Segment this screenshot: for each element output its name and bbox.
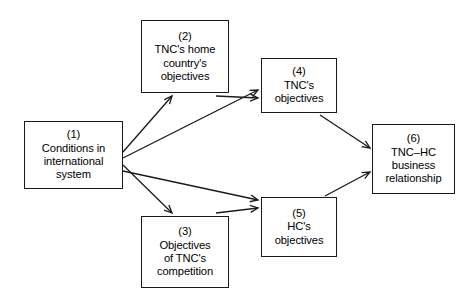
node-2[interactable]: (2) TNC's home country's objectives [141,20,229,93]
node-2-number: (2) [178,30,191,43]
node-1-line-3: system [56,168,91,181]
node-1-line-1: Conditions in [42,142,105,155]
node-3-line-1: Objectives [159,239,210,252]
node-1[interactable]: (1) Conditions in international system [24,121,123,189]
node-5-line-1: HC's [287,220,311,233]
node-6-number: (6) [407,132,420,145]
node-5[interactable]: (5) HC's objectives [261,197,337,257]
node-5-number: (5) [292,207,305,220]
node-5-line-2: objectives [275,234,324,247]
node-1-line-2: international [44,155,104,168]
node-2-line-2: country's [163,57,207,70]
node-4[interactable]: (4) TNC's objectives [261,58,337,113]
diagram-canvas: (1) Conditions in international system (… [0,0,467,308]
node-4-line-2: objectives [275,92,324,105]
node-6-line-1: TNC–HC [391,146,436,159]
node-4-line-1: TNC's [284,79,314,92]
node-3-line-2: of TNC's [164,252,206,265]
node-3-line-3: competition [157,265,213,278]
node-6-line-3: relationship [385,172,441,185]
node-2-line-1: TNC's home [155,43,216,56]
node-6[interactable]: (6) TNC–HC business relationship [372,124,455,194]
node-2-line-3: objectives [161,70,210,83]
node-3-number: (3) [178,225,191,238]
node-3[interactable]: (3) Objectives of TNC's competition [141,216,229,288]
node-6-line-2: business [392,159,435,172]
node-4-number: (4) [292,65,305,78]
node-1-number: (1) [67,128,80,141]
